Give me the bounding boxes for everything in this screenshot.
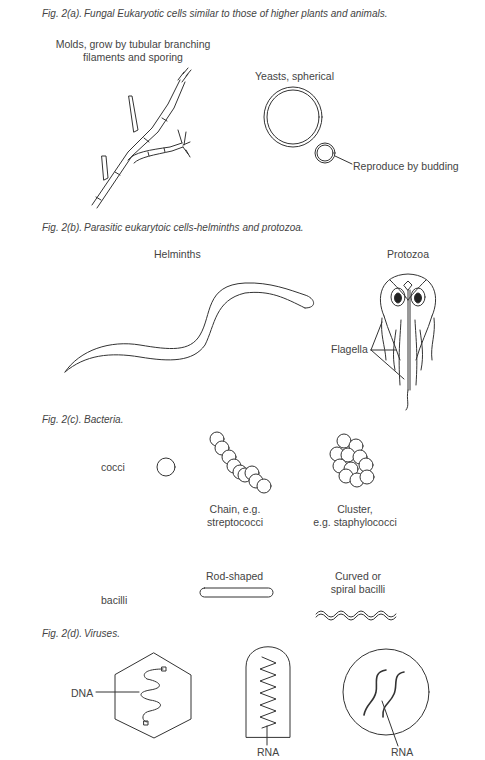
coccus-drawing (157, 458, 175, 476)
protozoa-drawing (371, 274, 436, 410)
rod-bacillus-drawing (200, 588, 273, 597)
helminth-worm-drawing (65, 283, 314, 372)
rna-virus-bullet-drawing (246, 647, 290, 745)
spiral-bacillus-drawing (316, 611, 396, 620)
staphylococci-cluster-drawing (330, 434, 374, 487)
mold-hyphae-drawing (92, 68, 191, 208)
figure-illustrations (0, 0, 485, 760)
dna-virus-drawing (96, 653, 191, 738)
streptococci-chain-drawing (210, 432, 271, 493)
yeast-cell-drawing (264, 87, 352, 164)
rna-virus-round-drawing (343, 649, 429, 746)
